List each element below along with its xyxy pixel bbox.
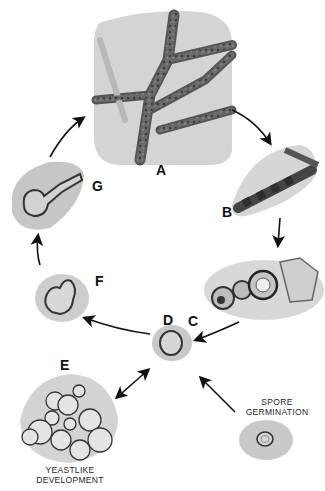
label-b: B xyxy=(222,205,232,219)
panel-c-cell-chain xyxy=(204,258,324,320)
label-f: F xyxy=(95,274,104,288)
arrow-f-to-g xyxy=(37,236,40,265)
panel-d-spherical-cell xyxy=(152,325,192,361)
panel-b-arthroconidia xyxy=(232,145,318,216)
label-g: G xyxy=(92,179,103,193)
panel-a-hyphae xyxy=(94,11,232,165)
caption-spore-germination: SPORE GERMINATION xyxy=(237,398,317,418)
panel-e-yeast-cluster xyxy=(20,374,118,463)
arrow-d-to-f xyxy=(85,318,150,334)
arrow-g-to-a xyxy=(50,118,83,157)
label-a: A xyxy=(156,163,166,177)
label-d: D xyxy=(163,313,173,327)
caption-yeastlike-development: YEASTLIKE DEVELOPMENT xyxy=(30,466,110,486)
arrow-c-to-d xyxy=(196,322,239,340)
caption-line: GERMINATION xyxy=(237,408,317,418)
panel-g-germ-tube xyxy=(12,162,84,230)
spore-germination-cell xyxy=(239,420,293,460)
label-c: C xyxy=(188,314,198,328)
label-e: E xyxy=(60,358,69,372)
panel-f-budding-cell xyxy=(35,274,89,322)
life-cycle-diagram: A B C D E F G YEASTLIKE DEVELOPMENT SPOR… xyxy=(0,0,325,491)
arrow-a-to-b xyxy=(232,110,270,143)
caption-line: DEVELOPMENT xyxy=(30,476,110,486)
arrow-spore-to-d xyxy=(201,378,235,412)
arrow-d-e-bidirectional xyxy=(122,370,148,393)
arrow-b-to-c xyxy=(278,218,280,245)
